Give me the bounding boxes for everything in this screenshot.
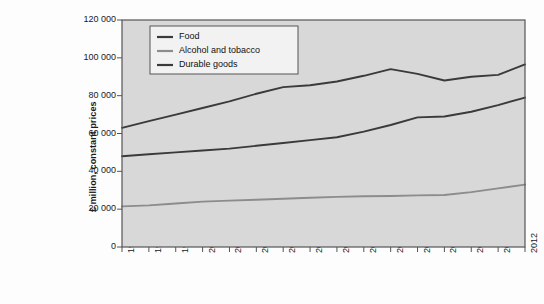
line-chart: £ million, constant prices 020 00040 000… (0, 0, 544, 304)
legend-label: Food (179, 31, 200, 41)
legend-label: Durable goods (179, 59, 238, 69)
plot-area (0, 0, 544, 304)
legend-label: Alcohol and tobacco (179, 45, 260, 55)
